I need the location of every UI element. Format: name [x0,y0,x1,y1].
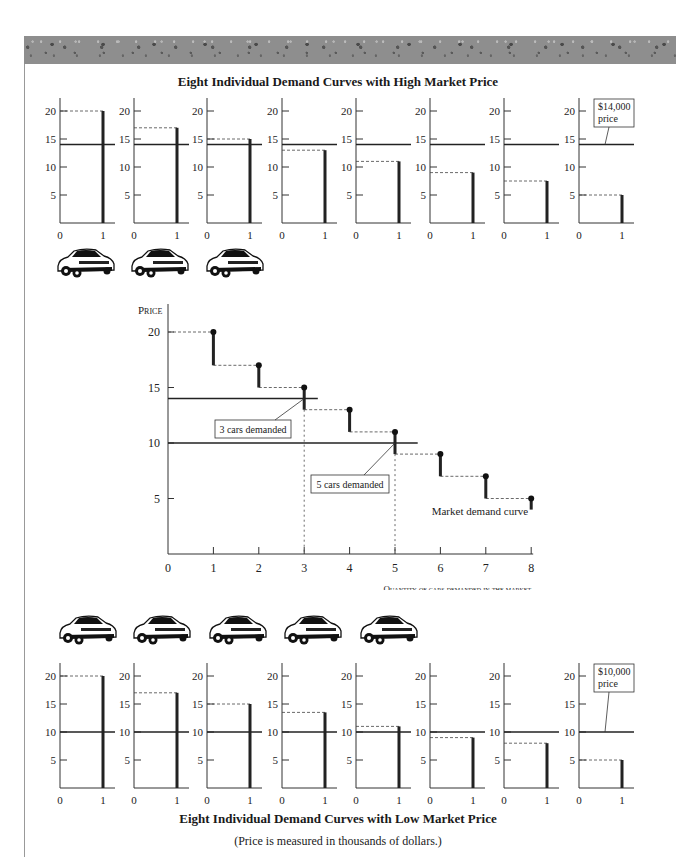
svg-text:15: 15 [192,698,204,710]
svg-text:8: 8 [528,561,534,575]
demand-step [439,454,442,476]
svg-text:10: 10 [45,726,57,738]
svg-text:15: 15 [415,698,427,710]
svg-text:1: 1 [470,794,476,805]
svg-text:5: 5 [421,189,427,201]
svg-text:15: 15 [415,133,427,145]
svg-text:1: 1 [544,229,550,240]
svg-text:10: 10 [45,161,57,173]
svg-text:10: 10 [415,726,427,738]
svg-text:5: 5 [154,492,160,506]
svg-text:5: 5 [51,754,57,766]
svg-text:0: 0 [204,794,210,805]
demand-bar [324,712,327,788]
svg-text:20: 20 [489,670,501,682]
data-point [437,451,443,457]
svg-text:20: 20 [148,325,160,339]
demand-bar [546,181,549,223]
svg-text:5: 5 [125,189,131,201]
svg-text:10: 10 [192,726,204,738]
svg-text:7: 7 [483,561,489,575]
svg-text:15: 15 [119,133,131,145]
x-axis-label: Quantity of cars demanded in the market [384,584,532,590]
svg-text:1: 1 [174,229,180,240]
svg-text:1: 1 [619,229,625,240]
svg-text:5: 5 [273,754,279,766]
svg-text:1: 1 [100,794,106,805]
svg-text:1: 1 [470,229,476,240]
svg-text:10: 10 [341,726,353,738]
svg-text:$10,000: $10,000 [598,666,631,677]
high-price-chart-6: 201510501 [415,98,485,240]
high-price-chart-7: 201510501 [489,98,559,240]
demand-bar [176,128,179,223]
car-icon [206,613,268,645]
demand-step [212,332,215,365]
demand-bar [398,161,401,223]
svg-text:5: 5 [495,754,501,766]
svg-text:2: 2 [256,561,262,575]
svg-text:5: 5 [125,754,131,766]
low-price-individual-charts: 2015105012015105012015105012015105012015… [0,655,676,805]
svg-text:5: 5 [495,189,501,201]
car-icon [130,613,192,645]
svg-text:1: 1 [322,794,328,805]
data-point [210,329,216,335]
svg-text:1: 1 [247,229,253,240]
car-icon [203,246,265,278]
svg-text:20: 20 [341,105,353,117]
car-icon [281,613,343,645]
svg-text:5: 5 [570,754,576,766]
data-point [392,429,398,435]
high-price-chart-4: 201510501 [267,98,337,240]
car-icon [56,613,118,645]
high-price-chart-5: 201510501 [341,98,411,240]
svg-text:10: 10 [119,161,131,173]
svg-text:0: 0 [57,229,63,240]
high-price-individual-charts: 2015105012015105012015105012015105012015… [0,90,676,240]
low-price-chart-4: 201510501 [267,663,337,805]
svg-text:$14,000: $14,000 [598,101,631,112]
svg-text:20: 20 [415,670,427,682]
svg-text:10: 10 [267,161,279,173]
svg-text:20: 20 [564,105,576,117]
svg-text:15: 15 [564,133,576,145]
svg-text:20: 20 [192,105,204,117]
svg-text:6: 6 [437,561,443,575]
svg-text:10: 10 [415,161,427,173]
svg-text:20: 20 [45,670,57,682]
svg-text:15: 15 [267,698,279,710]
svg-text:5: 5 [51,189,57,201]
svg-text:15: 15 [148,381,160,395]
data-point [301,385,307,391]
svg-text:5: 5 [198,189,204,201]
svg-text:20: 20 [192,670,204,682]
svg-text:5: 5 [273,189,279,201]
annotation-3-cars: 3 cars demanded [219,424,286,435]
demand-bar [472,738,475,788]
car-icon [54,246,116,278]
data-point [483,473,489,479]
svg-text:5: 5 [570,189,576,201]
low-price-chart-8: 201510501$10,000price [564,663,634,805]
svg-text:15: 15 [489,698,501,710]
svg-text:0: 0 [279,229,285,240]
bottom-title: Eight Individual Demand Curves with Low … [0,811,676,827]
svg-text:1: 1 [544,794,550,805]
demand-step [257,365,260,387]
low-price-chart-3: 201510501 [192,663,262,805]
svg-text:20: 20 [415,105,427,117]
svg-text:0: 0 [131,229,137,240]
demand-bar [324,150,327,223]
svg-text:15: 15 [564,698,576,710]
y-axis-label: Price [138,304,162,316]
demand-step [484,476,487,498]
high-price-chart-2: 201510501 [119,98,189,240]
demand-bar [621,760,624,788]
footnote: (Price is measured in thousands of dolla… [0,834,676,849]
demand-bar [398,726,401,788]
demand-bar [176,693,179,788]
demand-bar [472,173,475,223]
annotation-5-cars: 5 cars demanded [316,479,383,490]
car-icon [128,246,190,278]
